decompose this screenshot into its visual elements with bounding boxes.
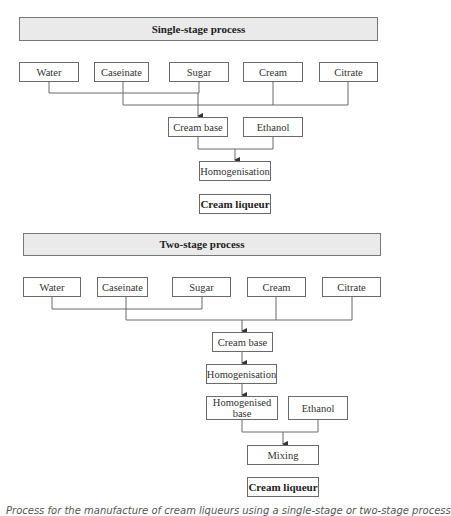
figure-caption: Process for the manufacture of cream liq… [6, 505, 451, 516]
single-input-citrate: Citrate [319, 62, 378, 82]
two-input-caseinate: Caseinate [97, 277, 148, 297]
single-ethanol: Ethanol [243, 117, 303, 137]
single-input-cream: Cream [243, 62, 303, 82]
two-mixing: Mixing [247, 445, 319, 465]
single-input-water: Water [19, 62, 79, 82]
two-homogenisation: Homogenisation [206, 364, 277, 384]
two-input-cream: Cream [247, 277, 306, 297]
single-input-sugar: Sugar [169, 62, 229, 82]
single-homogenisation: Homogenisation [199, 161, 271, 181]
single-input-caseinate: Caseinate [94, 62, 149, 82]
two-product-cream-liqueur: Cream liqueur [247, 477, 319, 497]
two-homogenised-base: Homogenised base [206, 396, 278, 420]
two-stage-header: Two-stage process [23, 233, 381, 256]
two-input-sugar: Sugar [172, 277, 231, 297]
single-cream-base: Cream base [168, 117, 228, 137]
single-product-cream-liqueur: Cream liqueur [199, 194, 271, 214]
two-ethanol: Ethanol [288, 396, 348, 420]
two-cream-base: Cream base [212, 332, 273, 352]
two-input-citrate: Citrate [322, 277, 381, 297]
two-input-water: Water [23, 277, 81, 297]
single-stage-header: Single-stage process [19, 17, 378, 41]
